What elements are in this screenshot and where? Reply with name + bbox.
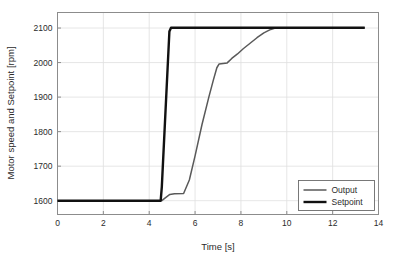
y-tick-label: 2000 [34, 58, 53, 68]
chart-canvas: 02468101214160017001800190020002100 Time… [0, 0, 396, 263]
x-tick-label: 14 [374, 218, 384, 228]
y-tick-label: 1600 [34, 196, 53, 206]
y-tick-label: 1700 [34, 161, 53, 171]
x-tick-label: 8 [239, 218, 244, 228]
chart-legend[interactable]: OutputSetpoint [299, 181, 375, 211]
legend-label-output: Output [332, 185, 358, 195]
x-axis-label: Time [s] [201, 241, 234, 252]
y-axis-label: Motor speed and Setpoint [rpm] [5, 46, 16, 179]
x-tick-label: 2 [101, 218, 106, 228]
y-tick-label: 1800 [34, 127, 53, 137]
x-tick-label: 4 [147, 218, 152, 228]
y-tick-label: 1900 [34, 92, 53, 102]
x-tick-label: 12 [328, 218, 338, 228]
x-tick-label: 10 [282, 218, 292, 228]
x-tick-label: 6 [193, 218, 198, 228]
legend-label-setpoint: Setpoint [332, 197, 364, 207]
x-tick-label: 0 [55, 218, 60, 228]
y-tick-label: 2100 [34, 23, 53, 33]
chart-figure: 02468101214160017001800190020002100 Time… [0, 0, 396, 263]
